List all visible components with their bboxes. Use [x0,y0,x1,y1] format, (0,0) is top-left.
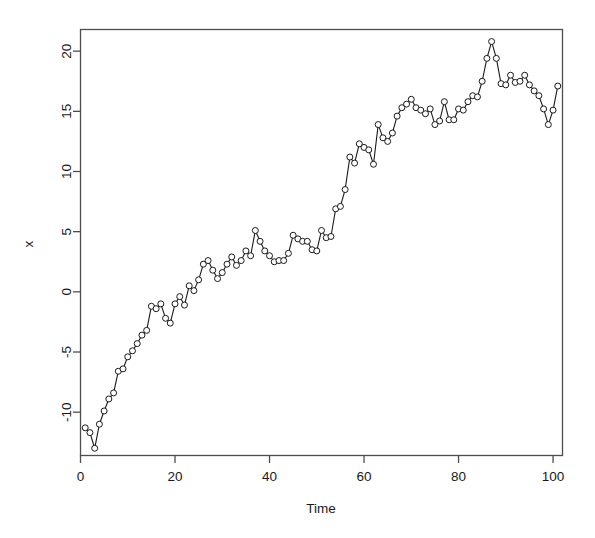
y-tick-label: 15 [59,104,74,119]
data-point-marker [215,276,221,282]
data-point-marker [205,258,211,264]
y-axis-title: x [21,240,36,247]
data-point-marker [129,348,135,354]
data-point-marker [536,93,542,99]
data-point-marker [252,227,258,233]
data-point-marker [484,55,490,61]
x-tick-label: 0 [77,469,85,484]
data-point-marker [248,253,254,259]
data-point-marker [517,78,523,84]
y-tick-label: -10 [59,402,74,422]
data-point-marker [422,111,428,117]
data-point-marker [125,354,131,360]
data-point-marker [120,366,126,372]
data-point-marker [219,270,225,276]
data-point-marker [304,238,310,244]
data-point-marker [281,258,287,264]
data-point-marker [87,430,93,436]
data-point-marker [111,390,117,396]
data-point-marker [550,107,556,113]
data-point-marker [233,262,239,268]
chart-background [0,0,595,538]
data-point-marker [541,106,547,112]
data-point-marker [210,267,216,273]
data-point-marker [375,122,381,128]
data-point-marker [352,160,358,166]
data-point-marker [489,39,495,45]
data-point-marker [267,253,273,259]
data-point-marker [337,203,343,209]
data-point-marker [262,248,268,254]
data-point-marker [96,421,102,427]
data-point-marker [243,248,249,254]
data-point-marker [101,408,107,414]
plot-root: 020406080100 -10-505101520 Time x [0,0,595,538]
data-point-marker [82,425,88,431]
data-point-marker [479,78,485,84]
data-point-marker [408,96,414,102]
data-point-marker [257,238,263,244]
data-point-marker [347,154,353,160]
data-point-marker [224,261,230,267]
data-point-marker [153,306,159,312]
data-point-marker [503,82,509,88]
y-tick-label: 0 [59,288,74,296]
data-point-marker [451,117,457,123]
data-point-marker [92,445,98,451]
data-point-marker [167,320,173,326]
data-point-marker [229,254,235,260]
x-tick-label: 80 [451,469,466,484]
data-point-marker [144,327,150,333]
data-point-marker [196,277,202,283]
data-point-marker [366,147,372,153]
data-point-marker [474,94,480,100]
data-point-marker [139,332,145,338]
data-point-marker [328,233,334,239]
data-point-marker [531,88,537,94]
data-point-marker [186,283,192,289]
y-tick-label: 10 [59,164,74,179]
data-point-marker [437,118,443,124]
y-tick-label: -5 [59,346,74,358]
y-tick-label: 20 [59,44,74,59]
x-axis-title: Time [306,501,336,516]
data-point-marker [493,55,499,61]
x-tick-label: 20 [167,469,182,484]
data-point-marker [370,161,376,167]
data-point-marker [385,138,391,144]
data-point-marker [427,106,433,112]
data-point-marker [285,250,291,256]
data-point-marker [319,227,325,233]
timeseries-chart: 020406080100 -10-505101520 Time x [0,0,595,538]
data-point-marker [172,301,178,307]
x-tick-label: 60 [357,469,372,484]
data-point-marker [389,130,395,136]
data-point-marker [177,294,183,300]
data-point-marker [555,83,561,89]
data-point-marker [158,301,164,307]
data-point-marker [163,315,169,321]
data-point-marker [106,396,112,402]
y-tick-label: 5 [59,228,74,236]
x-tick-label: 100 [542,469,565,484]
data-point-marker [394,113,400,119]
data-point-marker [404,101,410,107]
x-tick-label: 40 [262,469,277,484]
data-point-marker [181,302,187,308]
data-point-marker [460,107,466,113]
data-point-marker [508,72,514,78]
data-point-marker [441,99,447,105]
data-point-marker [526,82,532,88]
data-point-marker [342,187,348,193]
data-point-marker [134,341,140,347]
data-point-marker [314,248,320,254]
data-point-marker [522,72,528,78]
data-point-marker [545,122,551,128]
data-point-marker [465,99,471,105]
data-point-marker [191,288,197,294]
data-point-marker [238,258,244,264]
